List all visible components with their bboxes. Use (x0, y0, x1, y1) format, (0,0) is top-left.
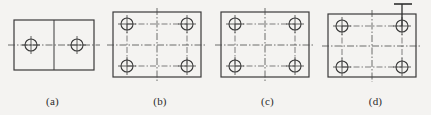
figure-caption-d: (d) (320, 95, 431, 107)
hole (118, 15, 136, 33)
hole (178, 57, 196, 75)
figure-b: (b) (105, 0, 215, 115)
figure-b-drawing (105, 0, 215, 90)
hole (68, 36, 86, 54)
hole (22, 36, 40, 54)
hole (226, 57, 244, 75)
figure-d: (d) (320, 0, 431, 115)
figure-c-drawing (215, 0, 320, 90)
hole (118, 57, 136, 75)
figure-d-drawing (320, 0, 431, 90)
hole (333, 17, 351, 35)
figure-c: (c) (215, 0, 320, 115)
drawing-sheet: (a) (0, 0, 431, 115)
hole (286, 15, 304, 33)
hole (226, 15, 244, 33)
figure-caption-c: (c) (215, 95, 320, 107)
hole (286, 57, 304, 75)
hole (393, 17, 411, 35)
hole (393, 58, 411, 76)
figure-a: (a) (0, 0, 105, 115)
figure-a-drawing (0, 0, 105, 90)
figure-caption-b: (b) (105, 95, 215, 107)
hole (333, 58, 351, 76)
figure-caption-a: (a) (0, 95, 105, 107)
hole (178, 15, 196, 33)
